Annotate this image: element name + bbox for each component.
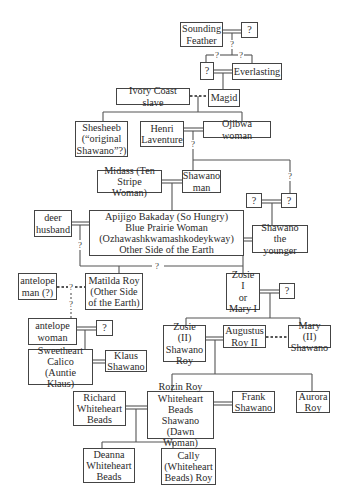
node-ivory-coast-slave: Ivory Coast slave [116, 88, 190, 105]
uncertain-mark: ? [68, 300, 74, 309]
node-everlasting: Everlasting [232, 63, 282, 80]
node-unknown-partner: ? [241, 22, 258, 38]
node-matilda-roy: Matilda Roy (Other Side of the Earth) [85, 273, 143, 310]
node-deer-husband: deer husband [34, 210, 72, 237]
node-shawano-man: Shawano man [182, 170, 221, 193]
node-antelope-woman-partner: ? [96, 320, 113, 336]
node-unknown-b: ? [281, 193, 297, 208]
node-antelope-man: antelope man (?) [18, 273, 57, 300]
node-augustus-roy-ii: Augustus Roy II [223, 325, 266, 348]
node-unknown-parent: ? [200, 62, 214, 80]
node-zosie-partner: ? [279, 283, 295, 299]
node-unknown-a: ? [246, 193, 262, 208]
uncertain-mark: ? [68, 283, 74, 292]
node-sweetheart-calico: Sweetheart Calico (Auntie Klaus) [28, 349, 93, 385]
node-mary-ii: Mary (II) Shawano [288, 325, 331, 348]
node-shawano-the-younger: Shawano the younger [252, 225, 308, 253]
node-magid: Magid [208, 89, 240, 107]
node-zosie-ii: Zosie (II) Shawano Roy [163, 325, 206, 362]
node-zosie-i: Zosie I or Mary I [226, 273, 260, 310]
uncertain-mark: ? [154, 262, 160, 271]
uncertain-mark: ? [214, 51, 220, 60]
node-shesheeb: Shesheeb (“original Shawano”?) [75, 121, 128, 157]
uncertain-mark: ? [229, 40, 235, 49]
uncertain-mark: ? [77, 241, 83, 250]
node-rozin-roy: Rozin Roy Whiteheart Beads Shawano (Dawn… [147, 391, 214, 439]
node-richard-whiteheart-beads: Richard Whiteheart Beads [73, 391, 126, 426]
node-apijigo-bakaday: Apijigo Bakaday (So Hungry) Blue Prairie… [89, 210, 244, 256]
node-aurora-roy: Aurora Roy [296, 391, 330, 413]
node-henri-laventure: Henri Laventure [140, 121, 184, 147]
node-midass: Midass (Ten Stripe Woman) [97, 170, 162, 193]
node-klaus-shawano: Klaus Shawano [105, 350, 147, 372]
uncertain-mark: ? [238, 51, 244, 60]
node-cally-roy: Cally (Whiteheart Beads) Roy [161, 448, 216, 485]
uncertain-mark: ? [190, 140, 196, 149]
node-sounding-feather: Sounding Feather [180, 22, 223, 47]
node-ojibwa-woman: Ojibwa woman [203, 121, 271, 138]
node-antelope-woman: antelope woman [28, 318, 77, 345]
uncertain-mark: ? [287, 172, 293, 181]
node-frank-shawano: Frank Shawano [232, 391, 275, 413]
node-deanna-whiteheart-beads: Deanna Whiteheart Beads [83, 448, 135, 483]
